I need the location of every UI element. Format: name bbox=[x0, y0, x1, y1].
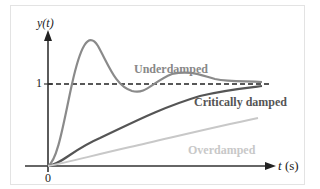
x-axis-arrow-icon bbox=[265, 162, 276, 170]
overdamped-curve bbox=[48, 118, 258, 166]
y-axis-label: y(t) bbox=[37, 16, 54, 31]
overdamped-label: Overdamped bbox=[188, 143, 255, 158]
y-tick-one-label: 1 bbox=[36, 76, 42, 91]
x-axis-unit: (s) bbox=[282, 158, 299, 173]
x-axis-label: t (s) bbox=[278, 158, 299, 174]
critically-damped-label: Critically damped bbox=[194, 95, 287, 110]
origin-label: 0 bbox=[45, 171, 51, 186]
y-axis-arrow-icon bbox=[44, 30, 52, 41]
underdamped-label: Underdamped bbox=[134, 62, 208, 77]
